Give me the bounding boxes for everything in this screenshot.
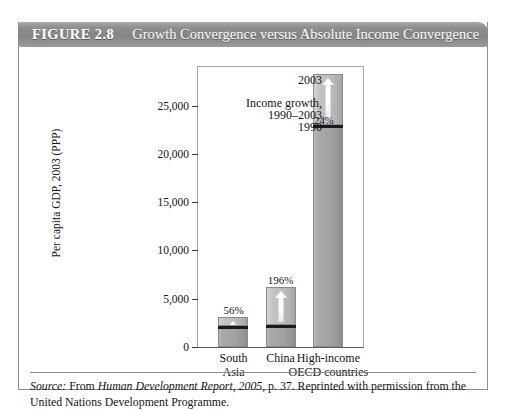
figure-title-bar: FIGURE 2.8 Growth Convergence versus Abs… (18, 22, 488, 47)
y-axis-tick (192, 202, 198, 203)
chart-area: Per capita GDP, 2003 (PPP) 05,00010,0001… (18, 47, 488, 369)
y-axis-tick-label: 20,000 (157, 148, 189, 160)
y-axis-tick (192, 250, 198, 251)
annotation-year-2003: 2003 (298, 74, 322, 86)
y-axis-tick-label: 15,000 (157, 196, 189, 208)
y-axis-tick-label: 0 (183, 341, 189, 353)
bar-china: 196%China (266, 287, 296, 347)
bar-divider-1990 (266, 325, 296, 328)
x-axis-label-line: South (219, 351, 247, 365)
y-axis-tick-label: 5,000 (163, 293, 189, 305)
growth-percent-label: 56% (223, 304, 243, 316)
bar-divider-1990 (218, 326, 248, 329)
y-axis-tick (192, 347, 198, 348)
source-divider (30, 372, 476, 373)
bar-segment-1990 (313, 127, 343, 347)
source-from: From (69, 379, 95, 393)
figure-number-label: FIGURE 2.8 (32, 26, 114, 43)
y-axis-tick-label: 10,000 (157, 244, 189, 256)
bar-segment-1990 (266, 327, 296, 347)
bar-south-asia: 56%SouthAsia (218, 317, 248, 347)
y-axis-tick-label: 25,000 (157, 100, 189, 112)
bar-segment-growth (218, 317, 248, 326)
y-axis-tick (192, 299, 198, 300)
bar-segment-1990 (218, 328, 248, 347)
bar-segment-growth (266, 287, 296, 325)
source-note: Source: From Human Development Report, 2… (30, 378, 478, 410)
y-axis-tick (192, 106, 198, 107)
source-publication: Human Development Report, 2005, (98, 379, 265, 393)
source-prefix: Source: (30, 379, 66, 393)
x-axis-label-line: High-income (289, 351, 369, 365)
annotation-year-1990: 1990 (298, 121, 322, 133)
x-axis-label: SouthAsia (219, 351, 247, 379)
growth-percent-label: 196% (268, 274, 294, 286)
y-axis-title: Per capita GDP, 2003 (PPP) (50, 93, 62, 293)
y-axis-tick (192, 154, 198, 155)
figure-title: Growth Convergence versus Absolute Incom… (132, 26, 479, 43)
x-axis-label: High-incomeOECD countries (289, 351, 369, 379)
